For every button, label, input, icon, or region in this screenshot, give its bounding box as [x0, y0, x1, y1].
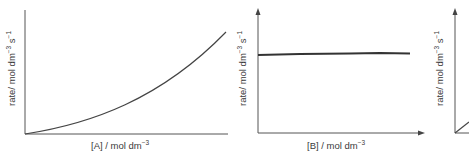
- charts-canvas: [0, 0, 469, 165]
- chart-2-x-label: [B] / mol dm−3: [307, 139, 365, 151]
- chart-2-x-arrow-icon: [418, 131, 425, 136]
- chart-2: [256, 8, 426, 136]
- chart-3: [453, 8, 469, 133]
- chart-3-y-arrow-icon: [453, 8, 458, 15]
- chart-1-y-label: rate/ mol dm−3 s−1: [5, 31, 17, 106]
- chart-2-y-arrow-icon: [256, 8, 261, 15]
- chart-1: [25, 10, 228, 134]
- chart-1-x-label: [A] / mol dm−3: [91, 139, 149, 151]
- chart-3-curve: [455, 122, 469, 133]
- chart-3-y-label: rate/ mol dm−3 s−1: [433, 31, 445, 106]
- chart-1-curve: [25, 32, 226, 134]
- chart-2-line: [258, 53, 410, 55]
- chart-2-y-label: rate/ mol dm−3 s−1: [236, 31, 248, 106]
